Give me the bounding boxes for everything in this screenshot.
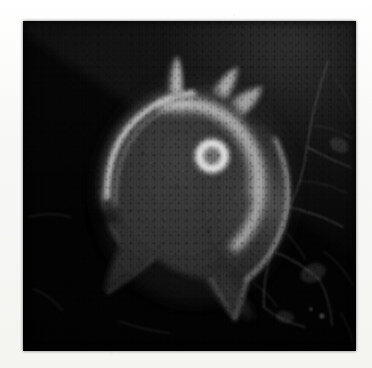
figure-page: Grayscale micrograph of a rounded cell w…	[0, 0, 372, 368]
plate-edge-feather	[23, 21, 356, 351]
micrograph-plate	[23, 21, 356, 351]
